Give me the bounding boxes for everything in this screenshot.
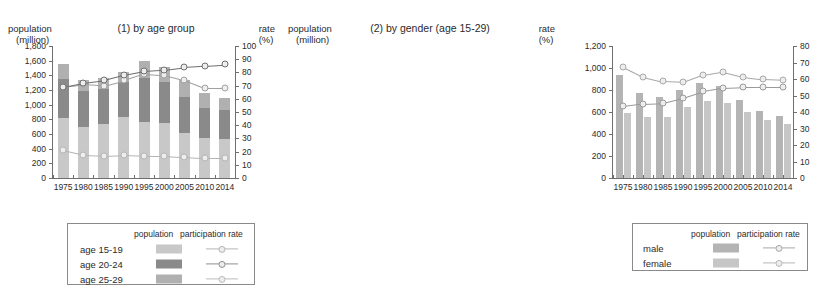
y2-axis-tick-label: 20 <box>242 147 272 157</box>
bar <box>656 97 663 178</box>
bar-segment <box>139 78 150 122</box>
legend-row-label: age 25-29 <box>80 274 123 285</box>
y2-axis-tick-mark <box>235 99 239 100</box>
x-axis-tick-label: 2005 <box>175 182 194 192</box>
chart-title-1: (1) by age group <box>0 22 296 34</box>
bar-segment <box>179 97 190 133</box>
y2-axis-tick-mark <box>235 178 239 179</box>
bar-stack <box>78 80 89 178</box>
x-axis-minor-tick <box>753 175 754 178</box>
data-point-marker <box>221 61 228 68</box>
x-axis-tick-label: 1985 <box>654 182 673 192</box>
legend-color-swatch <box>156 260 182 269</box>
bar <box>644 117 651 178</box>
data-point-marker <box>60 147 67 154</box>
legend-point-marker <box>219 276 226 283</box>
legend-by-age-group: populationparticipation rateage 15-19age… <box>67 223 255 285</box>
bar-segment <box>118 117 129 178</box>
y-axis-tick-mark <box>609 178 613 179</box>
data-point-marker <box>201 62 208 69</box>
y2-axis-tick-label: 10 <box>242 160 272 170</box>
data-point-marker <box>720 85 727 92</box>
y2-axis-tick-mark <box>793 112 797 113</box>
bar-stack <box>118 72 129 178</box>
x-axis-tick-label: 2010 <box>754 182 773 192</box>
bar-segment <box>199 108 210 138</box>
legend-line-sample <box>206 263 238 264</box>
legend-header-rate: participation rate <box>737 229 800 239</box>
y-axis-tick-label: 200 <box>562 151 606 161</box>
x-axis-minor-tick <box>713 175 714 178</box>
y2-axis-tick-mark <box>793 63 797 64</box>
y2-axis-tick-label: 40 <box>242 120 272 130</box>
y2-axis-tick-label: 40 <box>800 107 814 117</box>
x-axis-minor-tick <box>235 175 236 178</box>
y2-axis-tick-mark <box>235 152 239 153</box>
y-axis-tick-label: 1,000 <box>562 63 606 73</box>
y-axis-tick-label: 400 <box>2 144 46 154</box>
y2-axis-tick-mark <box>235 59 239 60</box>
data-point-marker <box>680 94 687 101</box>
x-axis-minor-tick <box>793 175 794 178</box>
legend-point-marker <box>219 246 226 253</box>
legend-by-gender: populationparticipation ratemalefemale <box>632 223 808 271</box>
bar <box>616 75 623 178</box>
x-axis-minor-tick <box>195 175 196 178</box>
x-axis-minor-tick <box>673 175 674 178</box>
bar <box>756 111 763 178</box>
data-point-marker <box>640 73 647 80</box>
legend-line-sample <box>763 247 795 248</box>
data-point-marker <box>760 84 767 91</box>
chart-panel-by-age-group: population (million) rate (%) (1) by age… <box>0 0 280 292</box>
y2-axis-tick-label: 0 <box>800 173 814 183</box>
x-axis-minor-tick <box>134 175 135 178</box>
data-point-marker <box>100 152 107 159</box>
data-point-marker <box>161 152 168 159</box>
legend-row-label: age 20-24 <box>80 259 123 270</box>
data-point-marker <box>100 77 107 84</box>
y-axis-tick-mark <box>609 112 613 113</box>
left-axis-unit-2: (million) <box>288 35 332 46</box>
bar-segment <box>199 93 210 108</box>
y2-axis-tick-mark <box>793 129 797 130</box>
data-point-marker <box>80 79 87 86</box>
data-point-marker <box>141 68 148 75</box>
y2-axis-tick-mark <box>793 46 797 47</box>
y-axis-tick-label: 600 <box>2 129 46 139</box>
y2-axis-tick-label: 90 <box>242 54 272 64</box>
data-point-marker <box>181 64 188 71</box>
x-axis-minor-tick <box>633 175 634 178</box>
data-point-marker <box>760 76 767 83</box>
data-point-marker <box>120 72 127 79</box>
y-axis-tick-label: 800 <box>562 85 606 95</box>
data-point-marker <box>60 83 67 90</box>
bar <box>664 117 671 178</box>
y-axis-tick-mark <box>49 75 53 76</box>
legend-point-marker <box>776 245 783 252</box>
legend-point-marker <box>776 260 783 267</box>
y-axis-tick-mark <box>609 156 613 157</box>
x-axis-minor-tick <box>93 175 94 178</box>
legend-color-swatch <box>156 245 182 254</box>
legend-point-marker <box>219 261 226 268</box>
legend-line-sample <box>206 248 238 249</box>
data-point-marker <box>161 66 168 73</box>
x-axis-minor-tick <box>174 175 175 178</box>
y-axis-tick-mark <box>609 46 613 47</box>
data-point-marker <box>660 99 667 106</box>
y-axis-tick-mark <box>49 134 53 135</box>
bar <box>716 86 723 178</box>
y-axis-tick-mark <box>49 105 53 106</box>
bar <box>724 103 731 178</box>
y2-axis-tick-label: 30 <box>800 124 814 134</box>
bar-segment <box>139 122 150 178</box>
y-axis-tick-label: 400 <box>562 129 606 139</box>
y2-axis-tick-mark <box>235 112 239 113</box>
bar-stack <box>58 64 69 178</box>
legend-color-swatch <box>156 275 182 284</box>
y-axis-tick-mark <box>609 90 613 91</box>
bar <box>764 120 771 178</box>
x-axis-tick-label: 2000 <box>155 182 174 192</box>
y2-axis-tick-mark <box>235 46 239 47</box>
y2-axis-tick-label: 20 <box>800 140 814 150</box>
